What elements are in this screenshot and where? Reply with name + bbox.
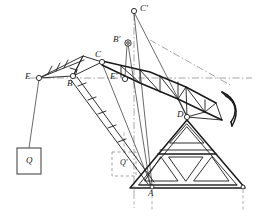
hoist-rope <box>29 79 39 148</box>
joint-E <box>36 75 41 80</box>
boom-lattice-truss <box>102 61 222 120</box>
label-point-A: A <box>148 189 154 198</box>
link-Bprime-to-Eprime <box>125 45 127 77</box>
figure-canvas: .s { fill:none; stroke:#1a1a1a; stroke-w… <box>0 0 259 218</box>
label-weight-Q-prime: Q′ <box>120 159 128 167</box>
label-point-B: B <box>67 79 73 88</box>
joint-Eprime <box>122 76 127 81</box>
label-point-E: E <box>25 72 31 81</box>
joint-Bprime-inner <box>127 42 130 45</box>
label-point-D: D <box>177 110 184 119</box>
support-truss <box>130 120 245 189</box>
joint-Cprime <box>131 8 136 13</box>
joint-C <box>99 59 104 64</box>
label-point-E-prime: E′ <box>110 72 117 81</box>
label-point-C-prime: C′ <box>140 4 148 13</box>
link-Bprime-to-A <box>128 44 150 185</box>
joint-D <box>184 114 189 119</box>
bucket-arc <box>222 92 236 126</box>
mechanism-diagram: .s { fill:none; stroke:#1a1a1a; stroke-w… <box>0 0 259 218</box>
label-weight-Q: Q <box>26 156 33 165</box>
label-point-C: C <box>95 50 101 59</box>
label-point-B-prime: B′ <box>113 35 120 44</box>
